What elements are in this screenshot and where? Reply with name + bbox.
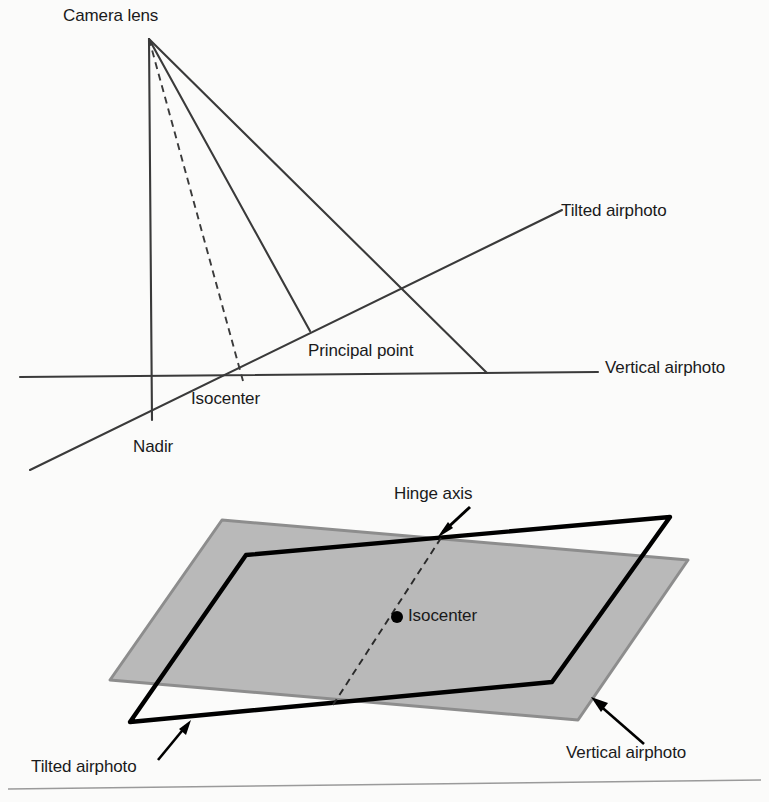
label-isocenter-lower: Isocenter bbox=[408, 606, 477, 626]
upper-isocenter-ray-dashed bbox=[149, 39, 243, 381]
label-vertical-airphoto-upper: Vertical airphoto bbox=[605, 358, 725, 378]
upper-outer-ray bbox=[149, 39, 487, 373]
figure-container: Camera lens Principal point Isocenter Na… bbox=[0, 0, 769, 802]
upper-nadir-ray bbox=[149, 39, 152, 420]
upper-diagram-group bbox=[20, 39, 598, 470]
label-isocenter-upper: Isocenter bbox=[191, 389, 260, 409]
vertical-airphoto-arrow-icon bbox=[591, 697, 644, 744]
label-tilted-airphoto-lower: Tilted airphoto bbox=[31, 757, 137, 777]
lower-isocenter-dot bbox=[391, 611, 403, 623]
label-camera-lens: Camera lens bbox=[63, 6, 158, 26]
label-principal-point: Principal point bbox=[308, 341, 413, 361]
label-vertical-airphoto-lower: Vertical airphoto bbox=[566, 743, 686, 763]
upper-principal-point-ray bbox=[149, 39, 310, 331]
label-hinge-axis: Hinge axis bbox=[394, 484, 472, 504]
page-rule bbox=[8, 780, 761, 789]
tilted-airphoto-arrow-icon bbox=[158, 720, 191, 760]
diagram-canvas bbox=[0, 0, 769, 802]
label-nadir: Nadir bbox=[133, 437, 173, 457]
lower-diagram-group bbox=[110, 507, 688, 760]
label-tilted-airphoto-upper: Tilted airphoto bbox=[561, 201, 667, 221]
upper-tilted-airphoto-line bbox=[30, 215, 552, 470]
upper-vertical-airphoto-line bbox=[20, 372, 598, 377]
